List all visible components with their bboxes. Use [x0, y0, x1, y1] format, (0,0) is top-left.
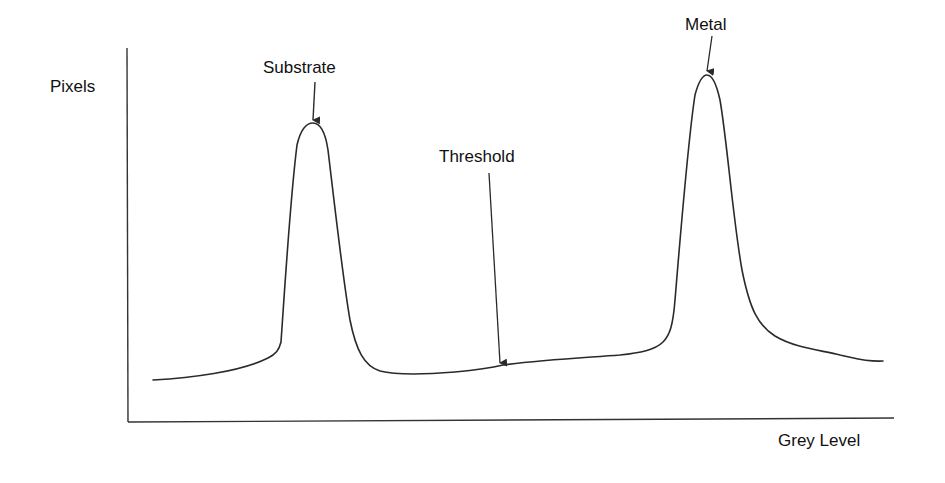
substrate-annotation: Substrate [263, 58, 336, 120]
threshold-arrow-icon [489, 173, 500, 363]
substrate-label: Substrate [263, 58, 336, 77]
histogram-curve [153, 75, 883, 380]
metal-annotation: Metal [685, 15, 727, 71]
x-axis-label: Grey Level [778, 431, 860, 450]
y-axis-line [127, 48, 128, 422]
y-axis-label: Pixels [50, 77, 95, 96]
histogram-chart: Pixels Grey Level Substrate Threshold Me… [0, 0, 945, 483]
threshold-label: Threshold [439, 147, 515, 166]
threshold-annotation: Threshold [439, 147, 515, 363]
axes [127, 48, 894, 422]
metal-label: Metal [685, 15, 727, 34]
metal-arrow-icon [707, 36, 712, 71]
x-axis-line [128, 418, 894, 422]
substrate-arrow-icon [313, 82, 315, 120]
chart-canvas: Pixels Grey Level Substrate Threshold Me… [0, 0, 945, 483]
